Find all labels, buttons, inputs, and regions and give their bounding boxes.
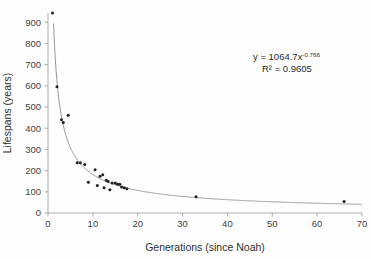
y-tick-label-600: 600 (25, 80, 41, 91)
y-tick-label-900: 900 (25, 17, 41, 28)
data-point (107, 180, 110, 183)
data-point (123, 186, 126, 189)
data-point (51, 12, 54, 15)
y-tick-marks (45, 22, 49, 213)
data-point (120, 186, 123, 189)
equation-base-text: y = 1064.7x (253, 51, 303, 62)
x-axis-title: Generations (since Noah) (145, 241, 265, 253)
chart-canvas: 0 100 200 300 400 500 600 700 800 900 (0, 0, 371, 259)
data-point (195, 195, 198, 198)
equation-exponent-text: -0.766 (302, 51, 320, 58)
x-tick-label-60: 60 (312, 218, 323, 229)
data-points-layer (51, 12, 346, 203)
y-axis-title: Lifespans (years) (1, 73, 13, 154)
x-tick-label-70: 70 (357, 218, 368, 229)
data-point (101, 173, 104, 176)
data-point (125, 187, 128, 190)
data-point (111, 181, 114, 184)
data-point (55, 85, 58, 88)
x-axis-group: 0 10 20 30 40 50 60 70 (45, 213, 367, 229)
y-tick-label-800: 800 (25, 38, 41, 49)
y-tick-label-500: 500 (25, 101, 41, 112)
x-tick-label-30: 30 (177, 218, 188, 229)
data-point (83, 163, 86, 166)
y-axis-group: 0 100 200 300 400 500 600 700 800 900 (25, 13, 48, 218)
data-point (343, 200, 346, 203)
x-tick-label-20: 20 (132, 218, 143, 229)
data-point (108, 188, 111, 191)
data-point (76, 161, 79, 164)
y-tick-label-100: 100 (25, 186, 41, 197)
x-tick-label-50: 50 (267, 218, 278, 229)
y-tick-label-200: 200 (25, 165, 41, 176)
x-tick-label-40: 40 (222, 218, 233, 229)
data-point (103, 186, 106, 189)
data-point (87, 181, 90, 184)
r-squared-text: R² = 0.9605 (262, 63, 312, 74)
data-point (94, 168, 97, 171)
x-tick-label-0: 0 (45, 218, 50, 229)
y-tick-label-700: 700 (25, 59, 41, 70)
data-point (67, 114, 70, 117)
x-tick-marks (48, 213, 362, 217)
data-point (96, 184, 99, 187)
x-tick-label-10: 10 (88, 218, 99, 229)
data-point (62, 121, 65, 124)
y-tick-label-400: 400 (25, 123, 41, 134)
scatter-chart: 0 100 200 300 400 500 600 700 800 900 (0, 0, 371, 259)
y-tick-label-0: 0 (36, 207, 41, 218)
data-point (118, 183, 121, 186)
data-point (60, 118, 63, 121)
data-point (79, 161, 82, 164)
data-point (99, 175, 102, 178)
trendline-equation: y = 1064.7x-0.766 (253, 51, 320, 62)
y-tick-label-300: 300 (25, 144, 41, 155)
